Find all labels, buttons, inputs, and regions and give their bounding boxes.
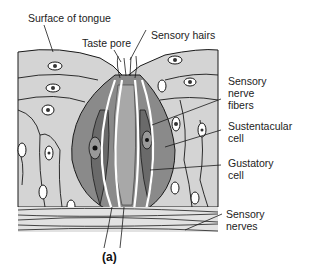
label-taste-pore: Taste pore (82, 37, 131, 49)
label-sensory-nerve-fibers: Sensory nerve fibers (228, 75, 267, 111)
label-sensory-nerves: Sensory nerves (226, 208, 265, 232)
label-sustentacular-cell: Sustentacular cell (228, 120, 292, 144)
label-gustatory-cell: Gustatory cell (228, 157, 274, 181)
figure-caption: (a) (102, 250, 117, 264)
label-surface-of-tongue: Surface of tongue (28, 12, 111, 24)
label-sensory-hairs: Sensory hairs (151, 29, 215, 41)
